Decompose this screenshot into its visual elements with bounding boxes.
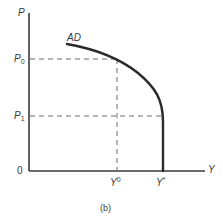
figure-caption: (b) bbox=[100, 204, 111, 213]
ystar-label: Y* bbox=[156, 176, 165, 188]
ad-curve-label: AD bbox=[67, 33, 81, 43]
x-axis-label: Y bbox=[208, 165, 215, 175]
p1-label: P1 bbox=[14, 111, 25, 122]
y-axis-label: P bbox=[18, 8, 25, 18]
origin-label: 0 bbox=[17, 166, 23, 176]
y0-label: Y0 bbox=[110, 176, 121, 188]
p0-label: P0 bbox=[14, 54, 25, 65]
ad-curve bbox=[67, 44, 163, 171]
